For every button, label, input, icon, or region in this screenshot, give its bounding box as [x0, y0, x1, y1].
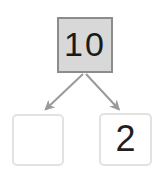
- whole-box[interactable]: 10: [57, 17, 113, 73]
- left-part-box[interactable]: [12, 114, 64, 166]
- whole-value: 10: [64, 27, 106, 61]
- arrow-to-right-part: [86, 74, 119, 110]
- right-part-value: 2: [115, 121, 135, 157]
- number-bond-diagram: 10 2: [0, 0, 165, 177]
- arrow-to-left-part: [46, 74, 84, 110]
- right-part-box[interactable]: 2: [99, 113, 152, 166]
